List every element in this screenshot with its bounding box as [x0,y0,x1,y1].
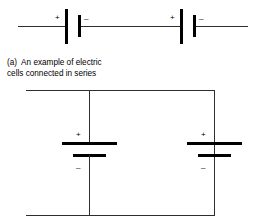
parallel-circuit-diagram: + – + – [0,0,253,224]
circuit-diagram-figure: + – + – (a) An example of electric cells… [0,0,253,224]
parallel-wire-bottom-rail [26,215,215,216]
parallel-cell-1-plus-label: + [76,131,81,139]
parallel-cell-1-positive-plate [62,142,117,145]
parallel-cell-2-positive-plate [187,142,242,145]
parallel-cell-2-minus-label: – [201,164,205,172]
parallel-cell-2-negative-plate [198,154,231,157]
parallel-branch-1-upper-wire [89,90,90,142]
parallel-branch-1-lower-wire [89,155,90,216]
parallel-cell-2-plus-label: + [201,131,206,139]
parallel-cell-1-minus-label: – [76,164,80,172]
parallel-wire-right-side [214,90,215,216]
parallel-wire-top-rail [26,90,215,91]
